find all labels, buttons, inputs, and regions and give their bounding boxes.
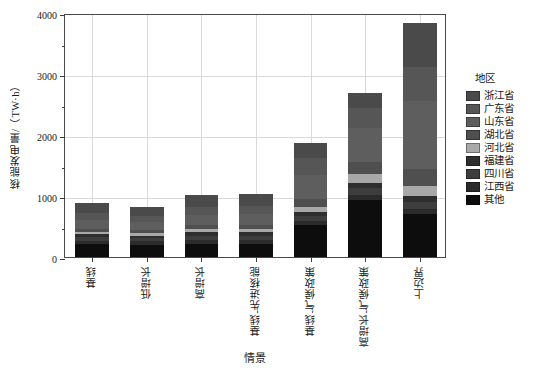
legend-item-label: 湖北省 (484, 130, 514, 141)
bar-segment-其他 (130, 245, 164, 257)
x-axis-tick-label: 高增长-气候政策 (358, 266, 373, 347)
y-axis-title: 核能发电量/（TW·h） (6, 0, 24, 268)
legend-item[interactable]: 浙江省 (466, 90, 514, 103)
bar-segment-浙江省 (348, 93, 382, 108)
bar-segment-广东省 (348, 108, 382, 128)
grid-line-horizontal (65, 137, 445, 138)
legend-swatch (466, 104, 480, 114)
x-axis-tick-label: 基线-气候政策 (304, 266, 319, 336)
y-axis-tick-label: 2000 (37, 132, 57, 143)
legend-item[interactable]: 湖北省 (466, 129, 514, 142)
legend-item-label: 四川省 (484, 169, 514, 180)
stacked-bar (130, 207, 164, 257)
bar-segment-湖北省 (348, 162, 382, 174)
legend-item-label: 河北省 (484, 143, 514, 154)
legend-item[interactable]: 其他 (466, 194, 514, 207)
y-axis-minor-tick (62, 107, 65, 108)
bar-segment-浙江省 (294, 143, 328, 158)
bar-segment-其他 (348, 200, 382, 257)
bar-segment-山东省 (294, 175, 328, 199)
bar-segment-山东省 (75, 220, 109, 229)
legend-item-label: 江西省 (484, 182, 514, 193)
y-axis-tick-label: 3000 (37, 71, 57, 82)
x-axis-tick-label: 低增长 (140, 266, 155, 299)
bar-segment-浙江省 (239, 194, 273, 206)
stacked-bar (75, 203, 109, 257)
bar-segment-其他 (239, 244, 273, 257)
legend: 地区 浙江省广东省山东省湖北省河北省福建省四川省江西省其他 (466, 74, 514, 207)
x-axis-tick (92, 257, 93, 262)
legend-swatch (466, 169, 480, 179)
y-axis-tick (60, 15, 65, 16)
bar-segment-山东省 (239, 214, 273, 225)
stacked-bar (403, 23, 437, 257)
x-axis-tick (256, 257, 257, 262)
y-axis-minor-tick (62, 168, 65, 169)
y-axis-tick (60, 76, 65, 77)
x-axis-tick (147, 257, 148, 262)
stacked-bar (348, 93, 382, 257)
stacked-bar (239, 194, 273, 257)
x-axis-tick (311, 257, 312, 262)
stacked-bar-chart-figure: 核能发电量/（TW·h） 01000200030004000 基线低增长高增长基… (0, 0, 534, 374)
legend-swatch (466, 195, 480, 205)
bar-segment-广东省 (185, 207, 219, 215)
x-axis-tick-label: 高增长 (194, 266, 209, 299)
y-axis-tick-label: 0 (52, 254, 57, 265)
legend-item[interactable]: 江西省 (466, 181, 514, 194)
bar-segment-山东省 (348, 128, 382, 162)
legend-swatch (466, 156, 480, 166)
grid-line-horizontal (65, 76, 445, 77)
legend-title: 地区 (475, 74, 514, 85)
legend-item[interactable]: 四川省 (466, 168, 514, 181)
x-axis-tick-label: 基线 (85, 266, 100, 288)
legend-swatch (466, 130, 480, 140)
y-axis-tick (60, 198, 65, 199)
legend-item-label: 其他 (484, 195, 504, 206)
bar-segment-其他 (403, 214, 437, 257)
bar-segment-广东省 (239, 206, 273, 214)
bar-segment-浙江省 (130, 207, 164, 216)
legend-swatch (466, 143, 480, 153)
bar-segment-其他 (185, 244, 219, 257)
x-axis-tick-label: 上边界 (413, 266, 428, 299)
bar-segment-浙江省 (75, 203, 109, 212)
x-axis-tick (420, 257, 421, 262)
bar-segment-广东省 (403, 67, 437, 101)
legend-item-label: 浙江省 (484, 91, 514, 102)
bar-segment-河北省 (403, 186, 437, 197)
y-axis-tick-label: 1000 (37, 193, 57, 204)
legend-swatch (466, 182, 480, 192)
y-axis-minor-tick (62, 46, 65, 47)
legend-item[interactable]: 广东省 (466, 103, 514, 116)
x-axis-tick (201, 257, 202, 262)
bar-segment-其他 (294, 225, 328, 257)
x-axis-tick-label: 基线-先进核能 (249, 266, 264, 336)
y-axis-minor-tick (62, 229, 65, 230)
legend-item-label: 广东省 (484, 104, 514, 115)
bar-segment-其他 (75, 244, 109, 257)
y-axis-tick-label: 4000 (37, 10, 57, 21)
y-axis-title-text: 核能发电量/（TW·h） (8, 80, 23, 189)
y-axis-tick (60, 137, 65, 138)
legend-item[interactable]: 河北省 (466, 142, 514, 155)
stacked-bar (294, 143, 328, 257)
bar-segment-湖北省 (403, 169, 437, 186)
bar-segment-湖北省 (294, 199, 328, 207)
legend-item-label: 福建省 (484, 156, 514, 167)
plot-area: 01000200030004000 基线低增长高增长基线-先进核能基线-气候政策… (64, 14, 446, 258)
bar-segment-山东省 (185, 215, 219, 226)
bar-segment-广东省 (294, 158, 328, 175)
legend-swatch (466, 117, 480, 127)
bar-segment-山东省 (130, 222, 164, 231)
x-axis-title: 情景 (64, 349, 446, 365)
legend-item[interactable]: 福建省 (466, 155, 514, 168)
y-axis-tick (60, 259, 65, 260)
legend-item-label: 山东省 (484, 117, 514, 128)
bar-segment-山东省 (403, 101, 437, 169)
bar-segment-河北省 (348, 174, 382, 183)
bar-segment-浙江省 (403, 23, 437, 66)
legend-item[interactable]: 山东省 (466, 116, 514, 129)
bar-segment-广东省 (75, 213, 109, 220)
stacked-bar (185, 195, 219, 257)
